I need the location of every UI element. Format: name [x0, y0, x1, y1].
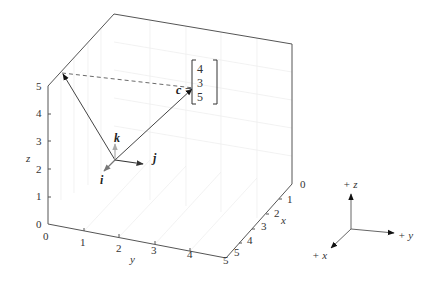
svg-text:4: 4	[197, 62, 203, 76]
label-j: j	[151, 151, 157, 165]
vector-to-top-left	[63, 74, 115, 160]
vector-c	[115, 89, 192, 160]
svg-text:2: 2	[274, 207, 280, 219]
svg-text:3: 3	[261, 220, 267, 232]
svg-text:1: 1	[80, 236, 86, 248]
unit-vector-i	[104, 160, 115, 171]
svg-text:2: 2	[36, 163, 42, 175]
left-bracket	[192, 60, 196, 104]
unit-vector-j	[115, 160, 143, 164]
svg-text:+ z: + z	[343, 178, 358, 190]
x-axis-label: x	[280, 214, 286, 226]
svg-text:3: 3	[151, 244, 157, 256]
y-tick-labels: 0 1 2 3 4 5	[43, 230, 229, 266]
z-axis-label: z	[25, 152, 31, 164]
svg-text:4: 4	[187, 248, 193, 260]
svg-text:+ y: + y	[398, 229, 413, 241]
triad-y-arrow	[351, 229, 394, 233]
svg-text:0: 0	[43, 230, 49, 242]
svg-text:4: 4	[36, 107, 42, 119]
top-left-edge	[48, 14, 114, 86]
grid-lines	[61, 20, 292, 251]
svg-text:5: 5	[197, 90, 203, 104]
x-tick-labels: 0 1 2 3 4 5	[234, 178, 306, 258]
svg-text:0: 0	[300, 178, 306, 190]
z-tick-labels: 0 1 2 3 4 5	[36, 80, 42, 230]
triad-x-arrow	[331, 229, 351, 248]
svg-text:4: 4	[247, 234, 253, 246]
y-axis-label: y	[129, 253, 135, 265]
vector-diagram: 0 1 2 3 4 5 z 0 1 2 3 4 5 y 0 1 2 3 4 5 …	[0, 0, 434, 281]
svg-text:5: 5	[36, 80, 42, 92]
label-k: k	[114, 131, 120, 145]
orientation-triad: + z + y + x	[312, 178, 413, 261]
svg-text:5: 5	[234, 246, 240, 258]
svg-text:+ x: + x	[312, 249, 327, 261]
svg-text:c: c	[176, 83, 182, 97]
svg-text:2: 2	[116, 242, 122, 254]
right-bracket	[213, 60, 217, 104]
svg-text:0: 0	[36, 218, 42, 230]
top-back-edge	[114, 14, 292, 44]
label-i: i	[100, 173, 104, 187]
svg-text:1: 1	[36, 190, 42, 202]
c-annotation: c = 4 3 5	[176, 60, 217, 104]
axes-box	[48, 14, 292, 258]
svg-text:=: =	[185, 83, 192, 97]
svg-text:3: 3	[197, 76, 203, 90]
svg-text:1: 1	[287, 193, 293, 205]
svg-text:3: 3	[36, 135, 42, 147]
svg-text:5: 5	[223, 254, 229, 266]
